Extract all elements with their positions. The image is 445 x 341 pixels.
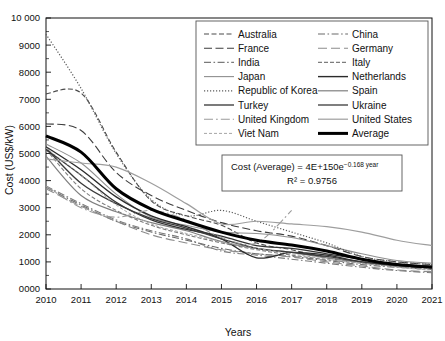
y-tick-label: 7000 xyxy=(19,94,40,105)
legend-label: United States xyxy=(352,114,412,125)
x-tick-label: 2014 xyxy=(176,294,197,305)
y-tick-label: 5000 xyxy=(19,148,40,159)
legend-label: Ukraine xyxy=(352,100,387,111)
series-line xyxy=(46,186,432,273)
legend-label: Average xyxy=(352,128,390,139)
legend-label: Italy xyxy=(352,57,370,68)
x-tick-label: 2017 xyxy=(281,294,302,305)
legend-label: Spain xyxy=(352,85,378,96)
legend-label: France xyxy=(238,43,270,54)
equation-annotation: Cost (Average) = 4E+150e−0.168 yearR² = … xyxy=(222,155,402,191)
line-chart: 0000100020003000400050006000700080009000… xyxy=(0,0,445,341)
chart-legend: AustraliaFranceIndiaJapanRepublic of Kor… xyxy=(196,21,428,145)
x-tick-label: 2016 xyxy=(246,294,267,305)
y-tick-label: 10 000 xyxy=(11,12,40,23)
y-tick-label: 9000 xyxy=(19,40,40,51)
equation-exponent: −0.168 year xyxy=(344,161,379,169)
y-axis-title: Cost (US$/kW) xyxy=(3,125,15,195)
equation-line-2: R² = 0.9756 xyxy=(287,175,337,186)
legend-label: India xyxy=(238,57,260,68)
x-tick-label: 2020 xyxy=(386,294,407,305)
x-axis-tick-labels: 2010201120122013201420152016201720182019… xyxy=(35,294,442,305)
series-line xyxy=(46,187,432,269)
x-tick-label: 2019 xyxy=(351,294,372,305)
series-line xyxy=(46,189,432,272)
legend-label: Netherlands xyxy=(352,71,406,82)
legend-label: Germany xyxy=(352,43,393,54)
legend-label: Australia xyxy=(238,29,277,40)
y-tick-label: 1000 xyxy=(19,256,40,267)
legend-box xyxy=(196,21,428,145)
y-tick-label: 6000 xyxy=(19,121,40,132)
x-tick-label: 2015 xyxy=(211,294,232,305)
y-tick-label: 3000 xyxy=(19,202,40,213)
legend-label: Republic of Korea xyxy=(238,85,318,96)
y-axis-tick-labels: 0000100020003000400050006000700080009000… xyxy=(11,12,40,294)
x-axis-title: Years xyxy=(225,326,251,338)
chart-figure: 0000100020003000400050006000700080009000… xyxy=(0,0,445,341)
legend-label: Viet Nam xyxy=(238,128,279,139)
x-tick-label: 2011 xyxy=(71,294,91,305)
x-tick-label: 2012 xyxy=(106,294,127,305)
legend-label: China xyxy=(352,29,379,40)
x-tick-label: 2021 xyxy=(421,294,442,305)
x-tick-label: 2018 xyxy=(316,294,337,305)
y-tick-label: 2000 xyxy=(19,229,40,240)
y-tick-label: 4000 xyxy=(19,175,40,186)
y-tick-label: 0000 xyxy=(19,283,40,294)
legend-label: Turkey xyxy=(238,100,268,111)
y-tick-label: 8000 xyxy=(19,67,40,78)
x-tick-label: 2013 xyxy=(141,294,162,305)
legend-label: United Kingdom xyxy=(238,114,309,125)
legend-label: Japan xyxy=(238,71,265,82)
x-tick-label: 2010 xyxy=(35,294,56,305)
